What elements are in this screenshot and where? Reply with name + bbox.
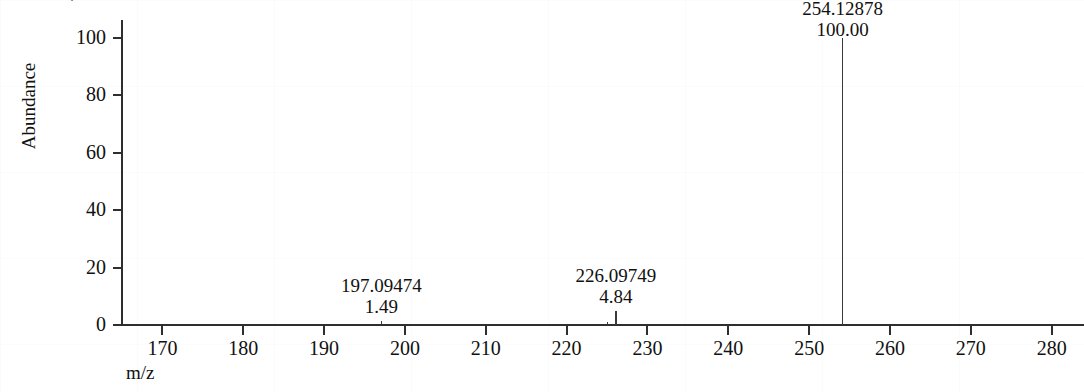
y-tick-mark	[113, 209, 122, 211]
y-tick-mark	[113, 152, 122, 154]
x-axis-title: m/z	[126, 362, 155, 384]
x-tick-label: 230	[612, 337, 682, 359]
y-tick-mark	[113, 267, 122, 269]
x-tick-mark	[161, 326, 163, 335]
y-tick-label: 0	[48, 314, 106, 334]
peak-relative-abundance: 1.49	[281, 296, 481, 317]
peak-bar	[615, 311, 616, 325]
y-tick-label: 40	[48, 199, 106, 219]
x-tick-label: 280	[1017, 337, 1084, 359]
x-tick-label: 250	[774, 337, 844, 359]
peak-mz-value: 226.09749	[516, 265, 716, 286]
peak-bar	[842, 38, 844, 325]
peak-relative-abundance: 100.00	[743, 19, 943, 40]
x-tick-label: 210	[451, 337, 521, 359]
peak-bar	[607, 322, 608, 325]
x-tick-label: 240	[693, 337, 763, 359]
y-tick-mark	[113, 94, 122, 96]
peak-label: 254.12878100.00	[743, 0, 943, 40]
peak-bar	[381, 321, 382, 325]
y-tick-label: 60	[48, 142, 106, 162]
y-tick-label: 20	[48, 257, 106, 277]
x-tick-label: 170	[127, 337, 197, 359]
x-tick-label: 220	[532, 337, 602, 359]
mass-spectrum-figure: Mass Spectrum Abundance m/z 100806040200…	[0, 0, 1084, 392]
peak-mz-value: 254.12878	[743, 0, 943, 19]
y-tick-label: 100	[48, 27, 106, 47]
x-tick-mark	[646, 326, 648, 335]
peak-mz-value: 197.09474	[281, 275, 481, 296]
x-tick-mark	[404, 326, 406, 335]
y-tick-mark	[113, 324, 122, 326]
x-axis-line	[121, 324, 1084, 326]
x-tick-label: 180	[208, 337, 278, 359]
clipped-figure-title: Mass Spectrum	[24, 0, 122, 1]
y-axis-title: Abundance	[18, 46, 40, 166]
peak-relative-abundance: 4.84	[516, 286, 716, 307]
x-tick-mark	[970, 326, 972, 335]
x-tick-label: 270	[936, 337, 1006, 359]
x-tick-mark	[485, 326, 487, 335]
x-tick-mark	[808, 326, 810, 335]
y-tick-mark	[113, 37, 122, 39]
x-tick-label: 190	[289, 337, 359, 359]
x-tick-mark	[242, 326, 244, 335]
peak-label: 226.097494.84	[516, 265, 716, 307]
x-tick-mark	[889, 326, 891, 335]
x-tick-mark	[566, 326, 568, 335]
y-axis-line	[121, 20, 123, 326]
x-tick-label: 200	[370, 337, 440, 359]
x-tick-mark	[1051, 326, 1053, 335]
x-tick-mark	[727, 326, 729, 335]
x-tick-mark	[323, 326, 325, 335]
peak-label: 197.094741.49	[281, 275, 481, 317]
x-tick-label: 260	[855, 337, 925, 359]
y-tick-label: 80	[48, 84, 106, 104]
